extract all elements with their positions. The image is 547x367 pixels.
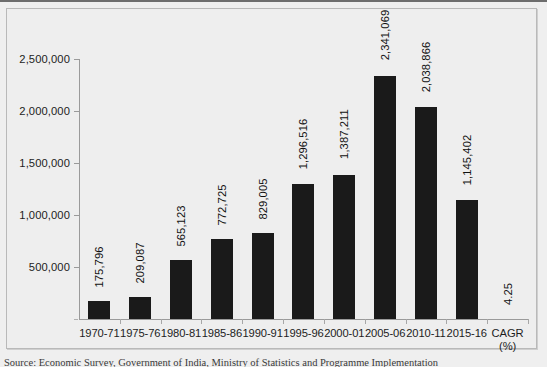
x-axis-tick bbox=[406, 319, 407, 324]
y-axis-tick-label: 2,500,000 bbox=[19, 53, 70, 65]
bar-value-label: 209,087 bbox=[134, 243, 146, 284]
x-axis-category-label: 1995-96 bbox=[283, 327, 324, 339]
bar-slot: 565,123 bbox=[161, 59, 202, 319]
bar[interactable] bbox=[211, 239, 233, 319]
bar-value-label: 2,341,069 bbox=[379, 10, 391, 61]
bar-slot: 209,087 bbox=[120, 59, 161, 319]
bar[interactable] bbox=[456, 200, 478, 319]
bar-slot: 772,725 bbox=[201, 59, 242, 319]
x-axis-category-label: 1970-71 bbox=[79, 327, 120, 339]
bar[interactable] bbox=[252, 233, 274, 319]
bar-value-label: 175,796 bbox=[93, 246, 105, 287]
x-axis-tick bbox=[120, 319, 121, 324]
x-axis-tick bbox=[242, 319, 243, 324]
x-axis-category-label: 1980-81 bbox=[161, 327, 202, 339]
chart-plot-frame: 500,0001,000,0001,500,0002,000,0002,500,… bbox=[6, 8, 537, 349]
bar-value-label: 2,038,866 bbox=[420, 41, 432, 92]
bar-value-label: 4.25 bbox=[502, 283, 514, 305]
bar-value-label: 829,005 bbox=[257, 178, 269, 219]
y-axis-zero-mark bbox=[74, 319, 78, 320]
bar-value-label: 565,123 bbox=[175, 206, 187, 247]
x-axis-category-label: 2000-01 bbox=[324, 327, 365, 339]
x-axis-tick bbox=[365, 319, 366, 324]
y-axis-tick-label: 2,000,000 bbox=[19, 105, 70, 117]
x-axis-line bbox=[79, 319, 528, 320]
x-axis-category-label: 1975-76 bbox=[120, 327, 161, 339]
y-axis-tick-label: 500,000 bbox=[29, 261, 70, 273]
x-axis-category-label: 2010-11 bbox=[406, 327, 447, 339]
bar-slot: 1,296,516 bbox=[283, 59, 324, 319]
bar[interactable] bbox=[88, 301, 110, 319]
y-axis-tick-label: 1,500,000 bbox=[19, 157, 70, 169]
bar-value-label: 772,725 bbox=[216, 184, 228, 225]
bar[interactable] bbox=[292, 184, 314, 319]
bar-value-label: 1,145,402 bbox=[461, 134, 473, 185]
bar-value-label: 1,296,516 bbox=[297, 118, 309, 169]
bar-slot: 175,796 bbox=[79, 59, 120, 319]
figure-caption: Source: Economic Survey, Government of I… bbox=[4, 357, 547, 367]
x-axis-category-label: CAGR(%) bbox=[487, 327, 528, 352]
bar-slot: 1,387,211 bbox=[324, 59, 365, 319]
x-axis-tick bbox=[446, 319, 447, 324]
bar-slot: 1,145,402 bbox=[446, 59, 487, 319]
x-axis-tick bbox=[161, 319, 162, 324]
bar[interactable] bbox=[170, 260, 192, 319]
bar[interactable] bbox=[374, 76, 396, 319]
x-axis-tick bbox=[201, 319, 202, 324]
x-axis-category-label: 1990-91 bbox=[242, 327, 283, 339]
bar[interactable] bbox=[129, 297, 151, 319]
x-axis-tick bbox=[528, 319, 529, 324]
x-axis-tick bbox=[324, 319, 325, 324]
bar-slot: 4.25 bbox=[487, 59, 528, 319]
chart-figure: 500,0001,000,0001,500,0002,000,0002,500,… bbox=[0, 0, 547, 367]
bar[interactable] bbox=[333, 175, 355, 319]
page-top-rule bbox=[0, 0, 547, 2]
bar[interactable] bbox=[415, 107, 437, 319]
bar-value-label: 1,387,211 bbox=[338, 109, 350, 159]
x-axis-category-label: 1985-86 bbox=[201, 327, 242, 339]
y-axis-tick-label: 1,000,000 bbox=[19, 209, 70, 221]
x-axis-tick bbox=[283, 319, 284, 324]
bar-slot: 2,038,866 bbox=[406, 59, 447, 319]
x-axis-tick bbox=[487, 319, 488, 324]
plot-area: 500,0001,000,0001,500,0002,000,0002,500,… bbox=[79, 59, 528, 329]
x-axis-category-label: 2005-06 bbox=[365, 327, 406, 339]
bar-slot: 829,005 bbox=[242, 59, 283, 319]
x-axis-category-label: 2015-16 bbox=[446, 327, 487, 339]
bar-slot: 2,341,069 bbox=[365, 59, 406, 319]
